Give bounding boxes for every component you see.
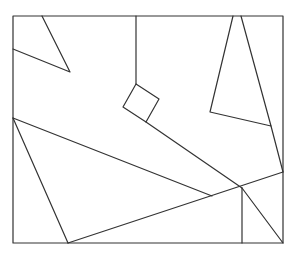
triangle-to-right-edge bbox=[271, 126, 283, 172]
square-to-junction bbox=[146, 122, 242, 188]
shape-group bbox=[13, 16, 271, 126]
geometry-diagram bbox=[0, 0, 299, 258]
top-left-triangle bbox=[13, 16, 70, 72]
line-group bbox=[13, 16, 283, 243]
left-point-to-mid bbox=[13, 118, 212, 196]
top-right-triangle bbox=[210, 16, 271, 126]
small-square bbox=[123, 84, 159, 122]
bottom-to-right-edge bbox=[68, 172, 283, 243]
junction-to-corner bbox=[242, 188, 283, 243]
